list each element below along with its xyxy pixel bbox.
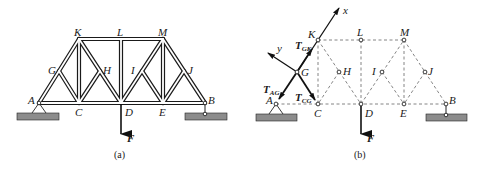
node-label-i: I [130,64,136,76]
node-label-k: K [73,26,82,38]
roller-pin-icon [203,112,207,116]
ground-support-a [256,114,297,121]
node-label-m: M [399,26,410,38]
force-label-tcg: TCG [295,91,311,105]
node-label-h: H [342,65,352,77]
ground-support-a [17,113,59,120]
node-label-i: I [371,65,377,77]
force-label-f: F [366,132,375,144]
node-label-c: C [314,107,322,119]
x-axis-label: x [342,4,348,16]
node-label-d: D [364,107,373,119]
node-label-k: K [307,28,316,40]
node-label-d: D [124,106,133,118]
node-label-j: J [188,64,194,76]
truss-members-outer [39,39,205,103]
joint-b [203,101,207,105]
y-axis-label: y [276,42,282,54]
node-label-l: L [356,26,363,38]
node-label-j: J [428,65,434,77]
figure-b: x y TGK TAG TCG F A G K C H L D I M E J … [256,4,467,161]
truss-diagram: A G K C H L D I M E J B F (a) [0,0,482,173]
caption-b: (b) [354,149,366,161]
caption-a: (a) [114,149,125,161]
force-label-tgk: TGK [295,39,313,53]
y-axis-arrow [268,53,297,72]
figure-a: A G K C H L D I M E J B F (a) [17,26,227,161]
joint-a [37,101,41,105]
roller-pin-icon [444,113,448,117]
node-label-c: C [75,106,83,118]
node-label-l: L [116,26,123,38]
node-label-b: B [449,94,456,106]
node-label-g: G [301,66,309,78]
node-label-g: G [48,64,56,76]
node-label-h: H [102,64,112,76]
node-label-b: B [208,94,215,106]
node-label-m: M [157,26,168,38]
node-label-e: E [399,107,407,119]
node-label-a: A [265,94,273,106]
node-label-a: A [27,94,35,106]
force-label-f: F [126,132,135,144]
node-label-e: E [158,106,166,118]
